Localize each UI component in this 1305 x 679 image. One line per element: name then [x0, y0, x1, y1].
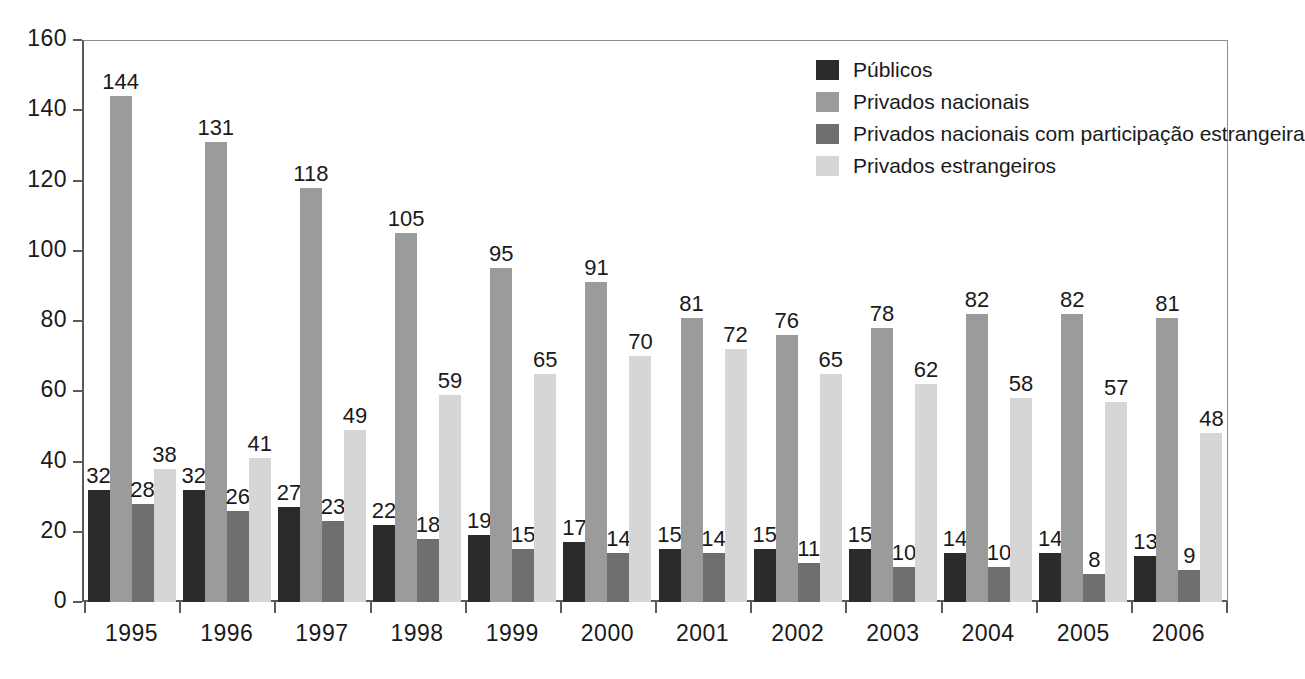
y-axis-tick-label: 140 — [27, 95, 67, 122]
x-axis-tick-label: 1997 — [295, 620, 348, 647]
x-axis-tick-mark — [750, 602, 752, 613]
bar: 144 — [110, 96, 132, 602]
bar: 32 — [183, 490, 205, 602]
bar: 15 — [512, 549, 534, 602]
bar-value-label: 23 — [321, 496, 345, 518]
x-axis-tick-mark — [465, 602, 467, 613]
bar: 15 — [659, 549, 681, 602]
bar-value-label: 144 — [102, 71, 139, 93]
bar: 58 — [1010, 398, 1032, 602]
bar-value-label: 81 — [679, 293, 703, 315]
legend-label: Privados nacionais — [853, 90, 1029, 114]
bar-value-label: 9 — [1183, 545, 1195, 567]
bar-value-label: 82 — [1060, 289, 1084, 311]
bar: 81 — [681, 318, 703, 603]
bar-value-label: 70 — [628, 331, 652, 353]
bar-value-label: 41 — [248, 433, 272, 455]
bar-group: 17911470 — [563, 40, 651, 602]
x-axis-tick-label: 2005 — [1057, 620, 1110, 647]
y-axis-tick-label: 20 — [40, 517, 67, 544]
y-axis-tick-label: 100 — [27, 236, 67, 263]
x-axis-tick-label: 1995 — [105, 620, 158, 647]
x-axis-tick-mark — [1036, 602, 1038, 613]
x-axis: 1995199619971998199920002001200220032004… — [84, 602, 1226, 662]
bar-value-label: 11 — [797, 538, 820, 560]
y-axis-tick-mark — [73, 39, 82, 41]
bar: 9 — [1178, 570, 1200, 602]
bar: 82 — [966, 314, 988, 602]
bar: 78 — [871, 328, 893, 602]
y-axis-tick-mark — [73, 109, 82, 111]
bar-value-label: 95 — [489, 243, 513, 265]
legend-label: Públicos — [853, 58, 932, 82]
bar: 41 — [249, 458, 271, 602]
bar: 82 — [1061, 314, 1083, 602]
bar: 131 — [205, 142, 227, 602]
bar-value-label: 118 — [293, 163, 328, 185]
x-axis-tick-mark — [560, 602, 562, 613]
bar-value-label: 13 — [1133, 531, 1157, 553]
legend-label: Privados estrangeiros — [853, 154, 1056, 178]
bar: 105 — [395, 233, 417, 602]
x-axis-tick-label: 2002 — [771, 620, 824, 647]
bar: 14 — [703, 553, 725, 602]
x-axis-tick-label: 1998 — [390, 620, 443, 647]
x-axis-tick-mark — [1226, 602, 1228, 613]
bar: 17 — [563, 542, 585, 602]
legend-item: Privados nacionais — [816, 88, 1305, 116]
bar-value-label: 19 — [467, 510, 491, 532]
y-axis-tick-mark — [73, 461, 82, 463]
y-axis-tick-mark — [73, 180, 82, 182]
bar-value-label: 38 — [152, 444, 176, 466]
y-axis-tick-mark — [73, 390, 82, 392]
x-axis-tick-label: 2003 — [866, 620, 919, 647]
bar: 13 — [1134, 556, 1156, 602]
bar-value-label: 15 — [753, 524, 777, 546]
bar-value-label: 59 — [438, 370, 462, 392]
y-axis-tick-label: 0 — [54, 587, 67, 614]
bar: 19 — [468, 535, 490, 602]
bar: 95 — [490, 268, 512, 602]
y-axis: 020406080100120140160 — [0, 40, 82, 602]
bar-value-label: 15 — [848, 524, 872, 546]
y-axis-tick-mark — [73, 320, 82, 322]
legend-label: Privados nacionais com participação estr… — [853, 122, 1305, 146]
bar-value-label: 32 — [182, 465, 206, 487]
bar-group: 321442838 — [88, 40, 176, 602]
y-axis-tick-mark — [73, 250, 82, 252]
bar-value-label: 14 — [943, 528, 967, 550]
bar: 23 — [322, 521, 344, 602]
bar: 15 — [754, 549, 776, 602]
bar-value-label: 76 — [775, 310, 799, 332]
y-axis-tick-mark — [73, 531, 82, 533]
bar: 27 — [278, 507, 300, 602]
bar-value-label: 48 — [1199, 408, 1223, 430]
y-axis-tick-label: 60 — [40, 376, 67, 403]
bar: 49 — [344, 430, 366, 602]
bar: 18 — [417, 539, 439, 602]
legend-swatch-icon — [816, 124, 839, 144]
bar: 32 — [88, 490, 110, 602]
bar-value-label: 15 — [657, 524, 681, 546]
bar: 10 — [988, 567, 1010, 602]
bar-value-label: 15 — [511, 524, 535, 546]
bar: 38 — [154, 469, 176, 602]
bar-value-label: 14 — [1038, 528, 1062, 550]
x-axis-tick-label: 2004 — [961, 620, 1014, 647]
bar: 65 — [534, 374, 556, 602]
x-axis-tick-label: 1996 — [200, 620, 253, 647]
bar-value-label: 27 — [277, 482, 301, 504]
bar: 81 — [1156, 318, 1178, 603]
bar-group: 321312641 — [183, 40, 271, 602]
bar-value-label: 57 — [1104, 377, 1128, 399]
bar-value-label: 65 — [533, 349, 557, 371]
bar: 72 — [725, 349, 747, 602]
bar-value-label: 10 — [892, 542, 916, 564]
bar-value-label: 28 — [130, 479, 154, 501]
bar: 14 — [607, 553, 629, 602]
bar: 76 — [776, 335, 798, 602]
x-axis-tick-label: 2006 — [1152, 620, 1205, 647]
bar: 62 — [915, 384, 937, 602]
x-axis-tick-mark — [84, 602, 86, 613]
bar-value-label: 17 — [562, 517, 586, 539]
